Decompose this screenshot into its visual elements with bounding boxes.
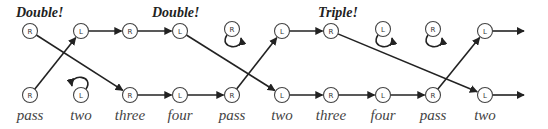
left-foot-node: L <box>74 88 89 103</box>
svg-text:L: L <box>178 92 182 100</box>
svg-text:R: R <box>431 92 436 100</box>
step-count-label: two <box>70 107 92 123</box>
left-foot-node: L <box>173 88 188 103</box>
step-count-label: pass <box>419 107 447 123</box>
callout-label: Double! <box>151 5 199 20</box>
step-count-label: two <box>271 107 293 123</box>
right-foot-node: R <box>123 88 138 103</box>
edge-group <box>35 31 524 95</box>
left-foot-node: L <box>173 24 188 39</box>
right-foot-node: R <box>23 88 38 103</box>
svg-text:R: R <box>329 92 334 100</box>
right-foot-node: R <box>225 88 240 103</box>
svg-text:L: L <box>79 28 83 36</box>
callout-label: Triple! <box>318 5 358 20</box>
callout-label: Double! <box>15 5 63 20</box>
callout-group: Double!Double!Triple! <box>15 5 358 20</box>
svg-text:L: L <box>280 28 284 36</box>
right-foot-node: R <box>426 22 441 37</box>
right-foot-node: R <box>23 24 38 39</box>
step-arrow <box>237 38 277 89</box>
step-arrow <box>338 34 477 92</box>
step-count-label: three <box>316 107 347 123</box>
svg-text:R: R <box>230 26 235 34</box>
left-foot-node: L <box>275 88 290 103</box>
svg-text:L: L <box>280 92 284 100</box>
right-foot-node: R <box>225 22 240 37</box>
svg-text:R: R <box>28 28 33 36</box>
step-count-label: four <box>370 107 395 123</box>
left-foot-node: L <box>478 24 493 39</box>
svg-text:R: R <box>128 92 133 100</box>
svg-text:L: L <box>381 92 385 100</box>
step-count-label: two <box>474 107 496 123</box>
step-label-group: passtwothreefourpasstwothreefourpasstwo <box>16 107 497 123</box>
svg-text:R: R <box>329 28 334 36</box>
right-foot-node: R <box>426 88 441 103</box>
step-arrow <box>35 38 76 89</box>
step-arrow <box>438 38 480 90</box>
svg-text:L: L <box>381 26 385 34</box>
svg-text:L: L <box>483 28 487 36</box>
left-foot-node: L <box>74 24 89 39</box>
right-foot-node: R <box>324 88 339 103</box>
svg-text:R: R <box>230 92 235 100</box>
svg-text:R: R <box>431 26 436 34</box>
left-foot-node: L <box>376 22 391 37</box>
step-arrow <box>186 35 274 90</box>
left-foot-node: L <box>478 88 493 103</box>
svg-text:R: R <box>28 92 33 100</box>
left-foot-node: L <box>376 88 391 103</box>
dance-step-diagram: Double!Double!Triple! RLRLRLRLRLRLRLRLRL… <box>0 0 548 129</box>
step-count-label: pass <box>16 107 44 123</box>
svg-text:L: L <box>483 92 487 100</box>
right-foot-node: R <box>324 24 339 39</box>
step-count-label: four <box>167 107 192 123</box>
svg-text:R: R <box>128 28 133 36</box>
left-foot-node: L <box>275 24 290 39</box>
step-count-label: three <box>115 107 146 123</box>
step-arrow <box>36 35 123 90</box>
svg-text:L: L <box>178 28 182 36</box>
step-count-label: pass <box>218 107 246 123</box>
svg-text:L: L <box>79 92 83 100</box>
right-foot-node: R <box>123 24 138 39</box>
